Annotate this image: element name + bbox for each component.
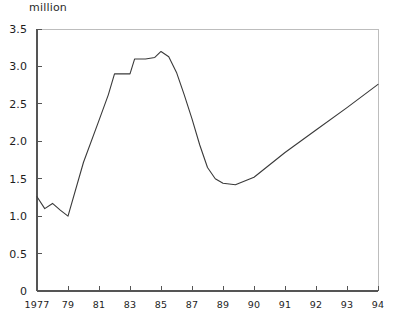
y-axis-tick-label: 1.5: [1, 172, 27, 185]
chart-figure: million 00.51.01.52.02.53.03.5 197779818…: [0, 0, 393, 325]
x-axis-tick-label: 90: [248, 299, 261, 310]
data-series-layer: [37, 51, 378, 216]
y-axis-tick-label: 3.5: [1, 23, 27, 36]
x-axis-tick-label: 89: [217, 299, 230, 310]
x-axis-tick-label: 91: [279, 299, 292, 310]
y-axis-tick-label: 0: [1, 285, 27, 298]
y-axis-tick-label: 2.5: [1, 97, 27, 110]
x-axis-tick-label: 85: [155, 299, 168, 310]
x-axis-tick-label: 92: [310, 299, 323, 310]
data-line-value: [37, 51, 378, 216]
x-axis-tick-label: 83: [124, 299, 137, 310]
x-axis-tick-label: 94: [372, 299, 385, 310]
y-axis-tick-label: 2.0: [1, 135, 27, 148]
x-axis-tick-label: 79: [62, 299, 75, 310]
line-chart-plot-area: [0, 0, 393, 325]
x-axis-tick-label: 81: [93, 299, 106, 310]
axis-ticks: [37, 29, 378, 291]
plot-frame: [37, 29, 378, 291]
x-axis-tick-label: 1977: [25, 299, 50, 310]
y-axis-tick-label: 3.0: [1, 60, 27, 73]
y-axis-tick-label: 1.0: [1, 210, 27, 223]
x-axis-tick-label: 87: [186, 299, 199, 310]
y-axis-tick-label: 0.5: [1, 247, 27, 260]
x-axis-tick-label: 93: [341, 299, 354, 310]
